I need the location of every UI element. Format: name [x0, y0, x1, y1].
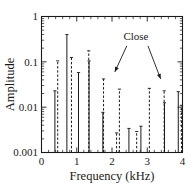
x-tick-label: 3 [145, 155, 151, 167]
annotation-arrow-head [157, 74, 161, 79]
plot-frame [42, 17, 183, 153]
data-stems [53, 35, 183, 153]
annotation-arrow-line [148, 46, 161, 79]
annotation-label: Close [123, 30, 148, 42]
y-tick-label: 0.01 [19, 101, 38, 113]
y-axis: 0.0010.010.11 [13, 10, 182, 158]
y-axis-title: Amplitude [3, 57, 17, 111]
x-axis-title: Frequency (kHz) [69, 169, 154, 183]
annotation-close: Close [115, 30, 161, 79]
chart-figure: 012340.0010.010.11CloseFrequency (kHz)Am… [0, 0, 195, 185]
x-tick-label: 4 [180, 155, 186, 167]
y-tick-label: 0.1 [24, 56, 38, 68]
y-tick-label: 0.001 [13, 146, 38, 158]
x-tick-label: 2 [109, 155, 115, 167]
y-tick-label: 1 [33, 10, 39, 22]
x-tick-label: 1 [74, 155, 80, 167]
spectrum-chart: 012340.0010.010.11CloseFrequency (kHz)Am… [0, 0, 195, 185]
annotation-arrow-head [115, 67, 119, 72]
x-tick-label: 0 [39, 155, 45, 167]
plot-border [42, 17, 183, 153]
